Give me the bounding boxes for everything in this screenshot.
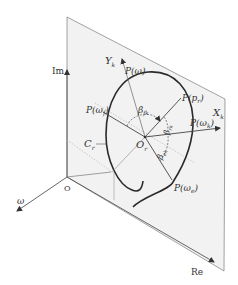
origin-label: O [64, 184, 71, 193]
label-p-omega-e: P(ωe) [173, 183, 198, 194]
omega-label: ω [17, 196, 25, 206]
re-label: Re [191, 267, 203, 277]
label-p-omega-k: P(ωk) [189, 118, 215, 129]
omega-axis [17, 177, 67, 211]
label-p-omega: P(ω) [124, 66, 146, 76]
nyquist-diagram: Im Re ω O Yk Xk Or Cr P(ω) P(ωf) P(pr) P… [0, 0, 238, 285]
im-label: Im [52, 66, 65, 76]
center-point [144, 136, 147, 139]
diagram-canvas: Im Re ω O Yk Xk Or Cr P(ω) P(ωf) P(pr) P… [0, 0, 238, 285]
label-p-p-r: P(pr) [181, 93, 204, 104]
